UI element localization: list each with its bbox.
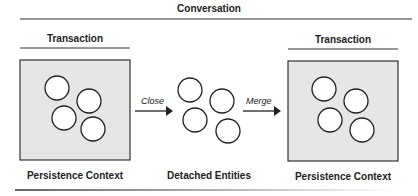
entity-circle	[178, 78, 202, 102]
left-transaction-label: Transaction	[20, 33, 130, 44]
right-context-caption: Persistence Context	[278, 171, 408, 182]
merge-arrow	[243, 106, 281, 116]
diagram-graphics	[0, 0, 418, 196]
entity-circle	[45, 76, 69, 100]
entity-circle	[210, 89, 234, 113]
persistence-diagram: Conversation Transaction Transaction Clo…	[0, 0, 418, 196]
detached-entities	[178, 78, 240, 143]
conversation-title: Conversation	[0, 3, 418, 14]
bottom-divider	[15, 189, 395, 191]
entity-circle	[344, 89, 368, 113]
entity-circle	[318, 108, 342, 132]
entity-circle	[77, 89, 101, 113]
merge-label: Merge	[246, 96, 272, 106]
entity-circle	[52, 106, 76, 130]
detached-caption: Detached Entities	[150, 170, 268, 181]
left-persistence-context-box	[20, 60, 130, 160]
left-context-caption: Persistence Context	[10, 170, 140, 181]
entity-circle	[312, 77, 336, 101]
entity-circle	[350, 118, 374, 142]
close-arrow	[135, 106, 173, 116]
close-label: Close	[141, 96, 164, 106]
right-persistence-context-box	[288, 61, 398, 161]
entity-circle	[216, 119, 240, 143]
entity-circle	[81, 117, 105, 141]
right-transaction-label: Transaction	[288, 34, 398, 45]
entity-circle	[183, 108, 207, 132]
